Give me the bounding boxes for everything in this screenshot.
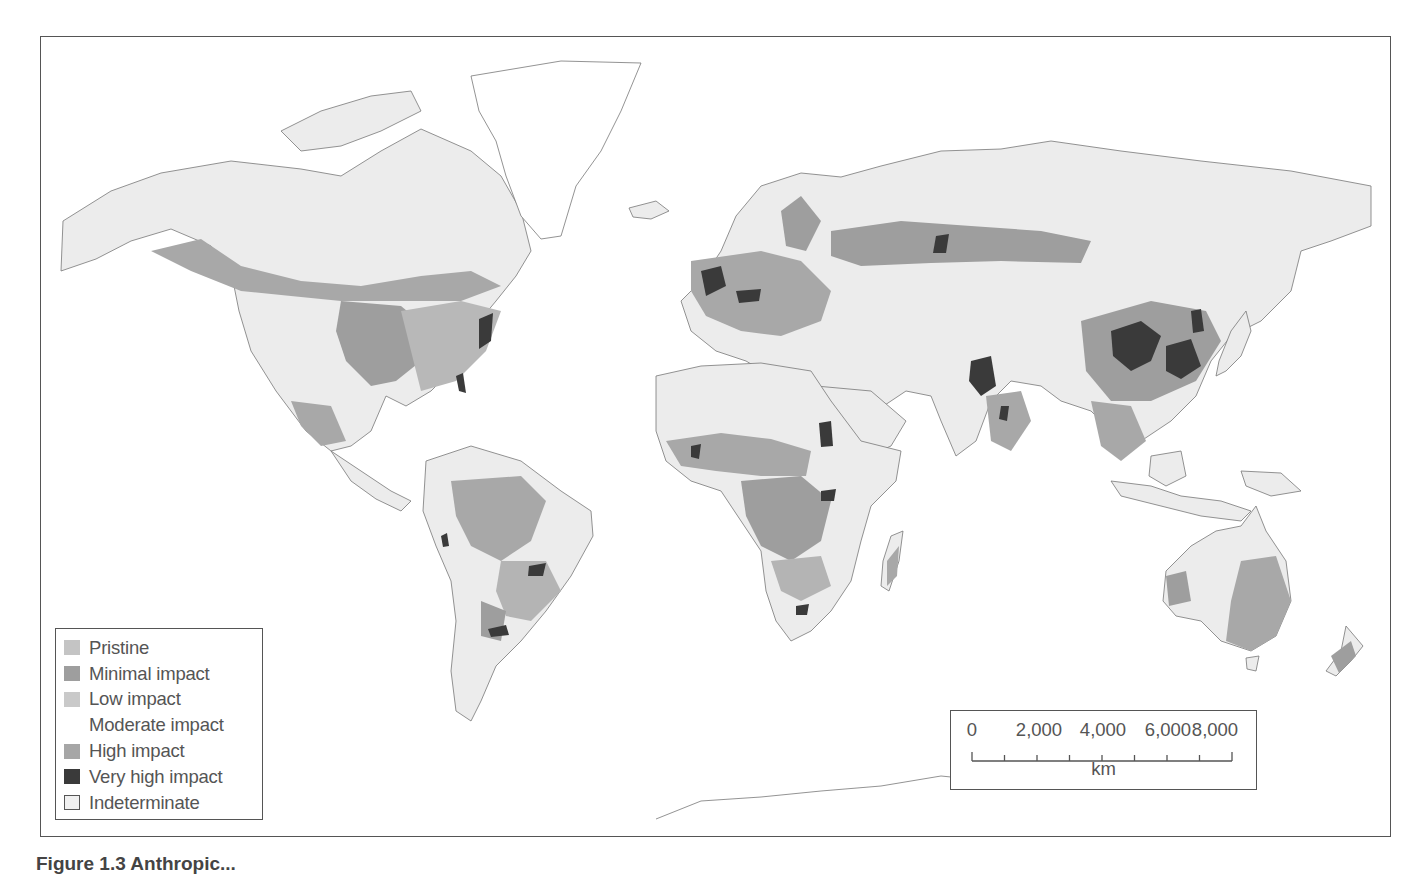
figure-caption: Figure 1.3 Anthropic... (36, 853, 236, 875)
iceland (629, 201, 669, 219)
scale-unit: km (1091, 758, 1116, 780)
legend-label: Pristine (89, 637, 149, 659)
legend-item-very-high-impact: Very high impact (64, 764, 254, 790)
legend-item-low-impact: Low impact (64, 687, 254, 713)
legend-label: High impact (89, 740, 184, 762)
indonesia (1111, 481, 1251, 521)
legend-swatch (64, 795, 80, 810)
legend-item-high-impact: High impact (64, 738, 254, 764)
borneo (1149, 451, 1186, 486)
legend-item-indeterminate: Indeterminate (64, 790, 254, 816)
legend-label: Low impact (89, 688, 181, 710)
tasmania (1246, 656, 1259, 671)
legend: Pristine Minimal impact Low impact Moder… (55, 628, 263, 820)
legend-label: Minimal impact (89, 663, 210, 685)
legend-swatch (64, 744, 80, 759)
legend-item-pristine: Pristine (64, 635, 254, 661)
legend-label: Moderate impact (89, 714, 224, 736)
legend-swatch (64, 666, 80, 681)
scale-bar: 0 2,000 4,000 6,000 8,000 km (950, 710, 1257, 790)
new-guinea (1241, 471, 1301, 496)
legend-swatch (64, 640, 80, 655)
legend-label: Indeterminate (89, 792, 200, 814)
legend-item-minimal-impact: Minimal impact (64, 661, 254, 687)
legend-item-moderate-impact: Moderate impact (64, 712, 254, 738)
legend-swatch (64, 718, 80, 733)
legend-swatch (64, 769, 80, 784)
central-america (331, 451, 411, 511)
legend-label: Very high impact (89, 766, 223, 788)
legend-swatch (64, 692, 80, 707)
